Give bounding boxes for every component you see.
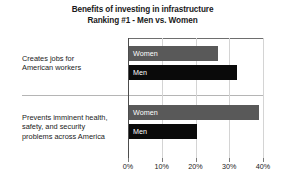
category-label-line: safety, and security bbox=[22, 122, 126, 131]
category-label-line: problems across America bbox=[22, 132, 126, 141]
bar-men[interactable]: Men bbox=[129, 65, 237, 80]
gridline-30% bbox=[229, 38, 230, 158]
x-tick-label-10%: 10% bbox=[155, 162, 169, 171]
chart-title-line-1: Benefits of investing in infrastructure bbox=[0, 4, 285, 15]
plot-area: WomenMenWomenMen bbox=[128, 38, 263, 158]
value-axis-line bbox=[128, 38, 129, 158]
bar-women[interactable]: Women bbox=[129, 46, 218, 61]
chart-title: Benefits of investing in infrastructure … bbox=[0, 4, 285, 26]
bar-women[interactable]: Women bbox=[129, 105, 259, 120]
x-tick-label-40%: 40% bbox=[256, 162, 270, 171]
x-tick-label-30%: 30% bbox=[222, 162, 236, 171]
category-label-creates-jobs: Creates jobs for American workers bbox=[22, 54, 126, 73]
bar-label-women: Women bbox=[129, 50, 158, 57]
chart-title-line-2: Ranking #1 - Men vs. Women bbox=[0, 15, 285, 26]
gridline-40% bbox=[263, 38, 264, 158]
category-label-line: American workers bbox=[22, 63, 126, 72]
bar-label-men: Men bbox=[129, 69, 147, 76]
category-label-line: Creates jobs for bbox=[22, 54, 126, 63]
x-tick-label-20%: 20% bbox=[188, 162, 202, 171]
bar-label-men: Men bbox=[129, 128, 147, 135]
category-label-line: Prevents imminent health, bbox=[22, 113, 126, 122]
bar-men[interactable]: Men bbox=[129, 124, 197, 139]
x-tick-label-0%: 0% bbox=[123, 162, 133, 171]
category-label-prevents-imminent-health: Prevents imminent health, safety, and se… bbox=[22, 113, 126, 141]
bar-label-women: Women bbox=[129, 109, 158, 116]
